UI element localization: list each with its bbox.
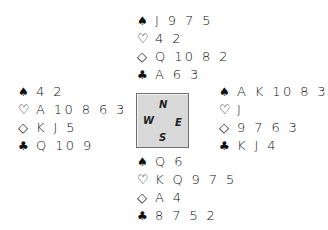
north-spades-row: ♠ J 9 7 5 — [137, 12, 230, 30]
heart-icon: ♡ — [137, 171, 155, 189]
spade-icon: ♠ — [137, 12, 155, 30]
south-hearts-row: ♡ K Q 9 7 5 — [137, 171, 237, 189]
west-hearts-row: ♡ A 10 8 6 3 — [18, 101, 127, 119]
spade-icon: ♠ — [219, 83, 237, 101]
west-diamonds-row: ◇ K J 5 — [18, 119, 127, 137]
diamond-icon: ◇ — [18, 119, 36, 137]
east-diamonds-cards: 9 7 6 3 — [237, 119, 299, 137]
south-hand: ♠ Q 6 ♡ K Q 9 7 5 ◇ A 4 ♣ 8 7 5 2 — [137, 153, 237, 225]
south-diamonds-cards: A 4 — [155, 189, 184, 207]
south-spades-cards: Q 6 — [155, 153, 185, 171]
west-hearts-cards: A 10 8 6 3 — [36, 101, 127, 119]
diamond-icon: ◇ — [219, 119, 237, 137]
east-spades-cards: A K 10 8 3 — [237, 83, 328, 101]
east-diamonds-row: ◇ 9 7 6 3 — [219, 119, 328, 137]
compass-north-label: N — [159, 99, 167, 110]
south-hearts-cards: K Q 9 7 5 — [155, 171, 237, 189]
east-clubs-cards: K J 4 — [237, 137, 278, 155]
north-clubs-cards: A 6 3 — [155, 66, 201, 84]
north-clubs-row: ♣ A 6 3 — [137, 66, 230, 84]
north-diamonds-cards: Q 10 8 2 — [155, 48, 230, 66]
east-hearts-cards: J — [237, 101, 243, 119]
west-clubs-cards: Q 10 9 — [36, 137, 94, 155]
south-spades-row: ♠ Q 6 — [137, 153, 237, 171]
south-clubs-cards: 8 7 5 2 — [155, 207, 217, 225]
east-hearts-row: ♡ J — [219, 101, 328, 119]
west-hand: ♠ 4 2 ♡ A 10 8 6 3 ◇ K J 5 ♣ Q 10 9 — [18, 83, 127, 155]
west-diamonds-cards: K J 5 — [36, 119, 77, 137]
north-hearts-row: ♡ 4 2 — [137, 30, 230, 48]
north-diamonds-row: ◇ Q 10 8 2 — [137, 48, 230, 66]
heart-icon: ♡ — [137, 30, 155, 48]
club-icon: ♣ — [18, 137, 36, 155]
east-spades-row: ♠ A K 10 8 3 — [219, 83, 328, 101]
heart-icon: ♡ — [18, 101, 36, 119]
south-clubs-row: ♣ 8 7 5 2 — [137, 207, 237, 225]
compass-east-label: E — [175, 117, 182, 128]
south-diamonds-row: ◇ A 4 — [137, 189, 237, 207]
compass-south-label: S — [159, 132, 166, 143]
heart-icon: ♡ — [219, 101, 237, 119]
diamond-icon: ◇ — [137, 48, 155, 66]
compass-west-label: W — [143, 115, 154, 126]
east-hand: ♠ A K 10 8 3 ♡ J ◇ 9 7 6 3 ♣ K J 4 — [219, 83, 328, 155]
west-spades-cards: 4 2 — [36, 83, 64, 101]
north-hearts-cards: 4 2 — [155, 30, 183, 48]
compass-box: N W E S — [136, 93, 189, 148]
west-clubs-row: ♣ Q 10 9 — [18, 137, 127, 155]
diamond-icon: ◇ — [137, 189, 155, 207]
spade-icon: ♠ — [18, 83, 36, 101]
north-hand: ♠ J 9 7 5 ♡ 4 2 ◇ Q 10 8 2 ♣ A 6 3 — [137, 12, 230, 84]
club-icon: ♣ — [137, 207, 155, 225]
west-spades-row: ♠ 4 2 — [18, 83, 127, 101]
spade-icon: ♠ — [137, 153, 155, 171]
north-spades-cards: J 9 7 5 — [155, 12, 213, 30]
club-icon: ♣ — [137, 66, 155, 84]
